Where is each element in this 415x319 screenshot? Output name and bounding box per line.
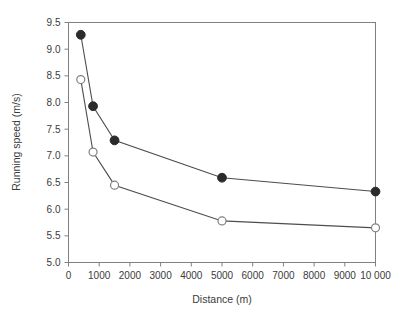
data-point-open-series [89,148,97,156]
data-point-filled-series [371,187,380,196]
x-tick-label: 10 000 [360,270,391,281]
data-point-filled-series [89,102,98,111]
x-tick-label: 1000 [88,270,111,281]
x-tick-label: 5000 [211,270,234,281]
x-tick-label: 8000 [303,270,326,281]
data-point-open-series [111,181,119,189]
y-tick-label: 9.5 [47,17,61,28]
x-tick-label: 0 [66,270,72,281]
y-tick-label: 9.0 [47,44,61,55]
running-speed-vs-distance-chart: 5.05.56.06.57.07.58.08.59.09.5 010002000… [0,0,415,319]
y-tick-label: 8.0 [47,97,61,108]
y-tick-label: 6.5 [47,177,61,188]
y-axis-title: Running speed (m/s) [10,93,22,190]
y-tick-label: 8.5 [47,70,61,81]
x-tick-label: 3000 [149,270,172,281]
data-point-filled-series [76,30,85,39]
y-tick-label: 6.0 [47,204,61,215]
x-tick-label: 6000 [242,270,265,281]
data-point-filled-series [110,136,119,145]
x-tick-label: 7000 [272,270,295,281]
data-point-open-series [77,76,85,84]
x-tick-label: 4000 [180,270,203,281]
x-tick-label: 9000 [334,270,357,281]
y-tick-label: 5.0 [47,257,61,268]
x-axis-tick-labels: 010002000300040005000600070008000900010 … [66,270,392,281]
y-tick-label: 7.5 [47,124,61,135]
y-tick-label: 7.0 [47,150,61,161]
series-line-open-series [81,80,376,228]
series-markers [76,30,380,231]
data-point-open-series [218,217,226,225]
data-point-open-series [372,224,380,232]
x-tick-label: 2000 [119,270,142,281]
series-lines [81,35,376,228]
chart-figure: 5.05.56.06.57.07.58.08.59.09.5 010002000… [0,0,415,319]
x-axis-ticks [69,263,376,267]
x-axis-title: Distance (m) [192,293,252,305]
series-line-filled-series [81,35,376,192]
y-tick-label: 5.5 [47,230,61,241]
y-axis-ticks [65,23,69,263]
y-axis-tick-labels: 5.05.56.06.57.07.58.08.59.09.5 [47,17,61,268]
data-point-filled-series [218,173,227,182]
